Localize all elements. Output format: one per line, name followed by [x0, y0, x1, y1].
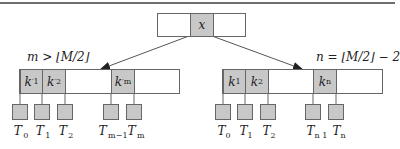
left-subtree-2 — [57, 104, 73, 120]
left-node-condition: m > ⌊M/2⌋ — [27, 50, 89, 64]
right-subtree-n-minus-1 — [305, 104, 321, 120]
left-subtree-label-m: T′m — [127, 124, 144, 140]
right-subtree-label-n-minus-1: Tn 1 — [307, 124, 328, 140]
root-node: x — [157, 13, 246, 37]
left-key-m: k′m — [111, 70, 135, 93]
left-subtree-m — [126, 104, 142, 120]
left-subtree-0 — [12, 104, 28, 120]
left-node: k′1 k′2 k′m — [19, 69, 180, 94]
left-subtree-label-m-minus-1: T′m−1 — [99, 124, 128, 140]
right-subtree-n — [328, 104, 344, 120]
arrow-to-left-node — [101, 36, 189, 69]
right-key-2: k2 — [245, 70, 269, 93]
left-key-1: k′1 — [20, 70, 43, 93]
root-key: x — [190, 14, 214, 36]
right-subtree-label-0: T0 — [217, 124, 230, 140]
left-subtree-1 — [34, 104, 50, 120]
right-key-n: kn — [313, 70, 337, 93]
root-key-label: x — [199, 18, 206, 32]
right-node: k1 k2 kn — [222, 69, 383, 94]
arrow-to-right-node — [212, 36, 302, 69]
right-key-1: k1 — [223, 70, 246, 93]
right-subtree-label-2: T2 — [262, 124, 275, 140]
right-subtree-label-1: T1 — [239, 124, 252, 140]
right-subtree-2 — [260, 104, 276, 120]
right-node-condition: n = ⌊M/2⌋ − 2 — [316, 50, 400, 64]
left-subtree-label-0: T′0 — [14, 124, 29, 140]
left-subtree-m-minus-1 — [103, 104, 119, 120]
left-subtree-label-2: T′2 — [59, 124, 74, 140]
right-subtree-0 — [215, 104, 231, 120]
right-subtree-1 — [237, 104, 253, 120]
left-subtree-label-1: T′1 — [36, 124, 51, 140]
right-subtree-label-n: Tn — [332, 124, 345, 140]
left-key-2: k′2 — [42, 70, 66, 93]
